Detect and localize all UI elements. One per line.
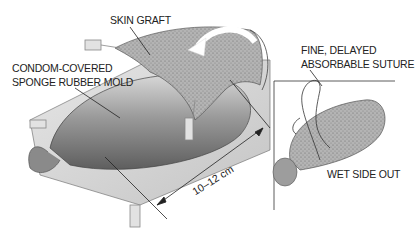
label-suture-line1: FINE, DELAYED — [301, 44, 376, 56]
illustration-canvas — [0, 0, 420, 239]
label-suture-line2: ABSORBABLE SUTURE — [301, 58, 414, 70]
label-mold-line2: SPONGE RUBBER MOLD — [12, 76, 133, 88]
label-wet-side-out: WET SIDE OUT — [327, 168, 400, 180]
label-mold-line1: CONDOM-COVERED — [12, 62, 112, 74]
label-skin-graft: SKIN GRAFT — [110, 14, 171, 26]
